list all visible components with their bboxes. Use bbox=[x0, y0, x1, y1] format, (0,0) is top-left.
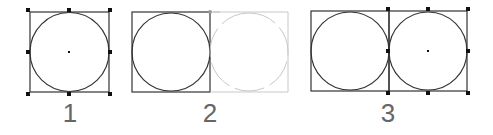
panel-2-shape bbox=[132, 12, 210, 92]
panel-1-label: 1 bbox=[50, 98, 90, 128]
panel-3-label: 3 bbox=[368, 98, 408, 128]
panel-2-ghost-shape bbox=[210, 12, 288, 92]
panel-3-handles bbox=[386, 7, 470, 95]
move-cursor-icon bbox=[208, 10, 220, 14]
panel-1-handles bbox=[26, 8, 112, 96]
panel-2-label: 2 bbox=[190, 98, 230, 128]
